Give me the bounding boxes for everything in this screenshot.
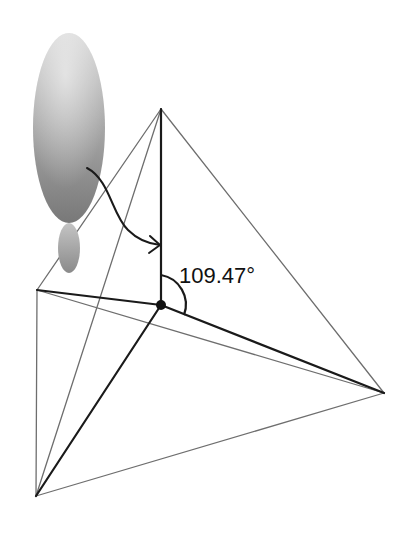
- edge-top-right: [161, 109, 384, 393]
- bond-center-right: [161, 305, 384, 393]
- angle-label: 109.47°: [179, 263, 255, 288]
- lone-pair-orbital: [33, 33, 105, 273]
- edge-left-right: [37, 290, 384, 393]
- orbital-large-lobe-highlight: [33, 33, 105, 223]
- tetrahedron-diagram: 109.47°: [0, 0, 415, 536]
- edge-left-bottom: [36, 290, 37, 496]
- edge-right-bottom: [36, 393, 384, 496]
- central-atom: [156, 300, 166, 310]
- bond-center-bottom: [36, 305, 161, 496]
- orbital-small-lobe: [58, 223, 80, 273]
